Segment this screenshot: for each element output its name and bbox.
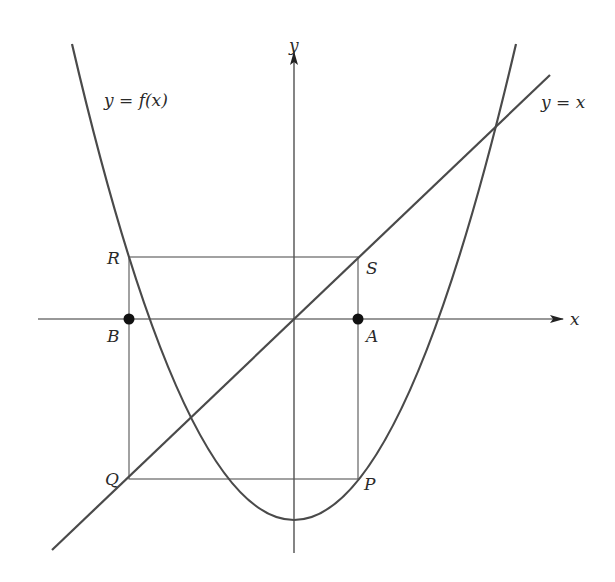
point-label-b: B bbox=[106, 326, 120, 346]
point-label-a: A bbox=[364, 326, 378, 346]
function-iteration-diagram: x y y = f(x) y = x R S B A Q P bbox=[0, 0, 615, 582]
point-b-marker bbox=[124, 314, 135, 325]
point-label-s: S bbox=[366, 258, 378, 278]
function-label: y = f(x) bbox=[103, 90, 168, 110]
point-label-r: R bbox=[106, 248, 120, 268]
point-label-p: P bbox=[363, 474, 376, 494]
y-axis-label: y bbox=[288, 35, 299, 55]
point-label-q: Q bbox=[105, 469, 119, 489]
x-axis-label: x bbox=[570, 309, 580, 329]
point-a-marker bbox=[353, 314, 364, 325]
diagonal-label: y = x bbox=[540, 92, 586, 112]
